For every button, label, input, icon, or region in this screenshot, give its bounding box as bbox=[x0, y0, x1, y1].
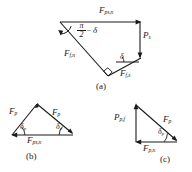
angle-minus-sign: − bbox=[86, 27, 91, 35]
vector-fps-n-base bbox=[11, 133, 73, 138]
label-fps-n-panel-b: Fps,n bbox=[27, 136, 41, 146]
caption-panel-c: (c) bbox=[160, 155, 170, 164]
label-delta-p-left-panel-b: δp bbox=[20, 123, 26, 132]
caption-panel-a: (a) bbox=[96, 82, 106, 91]
vector-ppf bbox=[134, 103, 139, 142]
label-fp-panel-c: Fp bbox=[163, 115, 171, 125]
label-ff-s-panel-a: Ff,s bbox=[120, 69, 130, 79]
angle-delta-symbol: δ bbox=[93, 26, 97, 35]
label-ps-panel-a: Ps bbox=[143, 31, 151, 41]
vector-fp-hyp bbox=[136, 105, 177, 141]
panel-a-vectors bbox=[58, 20, 142, 76]
panel-c-angle-arc bbox=[164, 133, 167, 142]
vector-ps bbox=[138, 22, 143, 59]
label-ff-n-panel-a: Ff,n bbox=[64, 49, 75, 59]
label-fps-n-panel-a: Fps,n bbox=[99, 6, 113, 16]
vector-fpn-base bbox=[135, 140, 177, 145]
label-delta-p-panel-c: δp bbox=[158, 128, 164, 137]
angle-fraction-pi-over-two: π 2 bbox=[77, 22, 86, 40]
label-fp-right-panel-b: Fp bbox=[52, 108, 60, 118]
vector-fps-n bbox=[60, 20, 142, 25]
panel-b-vectors bbox=[11, 103, 73, 138]
label-delta-p-right-panel-b: δp bbox=[56, 123, 62, 132]
label-delta-panel-a: δ bbox=[120, 53, 124, 61]
caption-panel-b: (b) bbox=[26, 152, 37, 161]
label-fp-left-panel-b: Fp bbox=[9, 107, 17, 117]
label-fpn-panel-c: Fp,n bbox=[143, 144, 155, 154]
label-ppf-panel-c: Pp,f bbox=[114, 113, 125, 123]
